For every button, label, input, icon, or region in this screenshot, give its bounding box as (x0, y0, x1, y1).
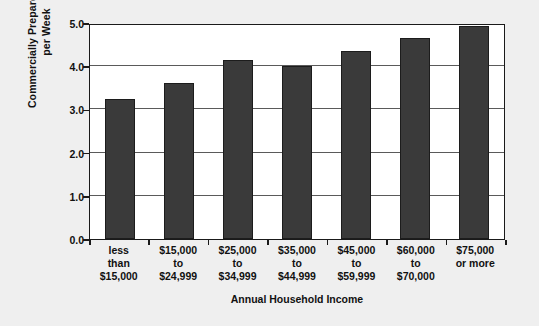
x-tick-label-line: $15,000 (89, 270, 148, 283)
x-tick-label: $25,000to$34,999 (208, 244, 267, 283)
bar-series (90, 25, 504, 239)
x-tick-label-line: $34,999 (208, 270, 267, 283)
x-tick-label-line: $44,999 (267, 270, 326, 283)
x-tick-mark (505, 240, 507, 245)
x-tick-label-line: $24,999 (148, 270, 207, 283)
x-tick-label-line: to (327, 257, 386, 270)
x-tick-label-line: less (89, 244, 148, 257)
plot-area (89, 24, 505, 240)
y-tick-label: 1.0 (50, 192, 84, 202)
x-tick-label-line: $60,000 (386, 244, 445, 257)
bar-chart-figure: Commercially Prepared Meals per Week 0.0… (0, 0, 539, 326)
bar-slot (267, 25, 326, 239)
x-tick-label-line: to (267, 257, 326, 270)
x-tick-label-line: to (386, 257, 445, 270)
y-tick-label: 4.0 (50, 62, 84, 72)
y-tick-label: 2.0 (50, 149, 84, 159)
x-tick-label-line: $75,000 (446, 244, 505, 257)
y-axis-title-line-2: per Week (40, 8, 52, 55)
x-tick-label-line: to (148, 257, 207, 270)
y-tick-label: 3.0 (50, 105, 84, 115)
x-tick-label: $75,000or more (446, 244, 505, 283)
bar (400, 38, 430, 239)
x-tick-label-line: $25,000 (208, 244, 267, 257)
x-tick-label-line: $59,999 (327, 270, 386, 283)
bar-slot (386, 25, 445, 239)
bar (341, 51, 371, 239)
x-tick-label-line: $70,000 (386, 270, 445, 283)
x-tick-label-line: $45,000 (327, 244, 386, 257)
x-tick-label-line: than (89, 257, 148, 270)
bar (282, 66, 312, 239)
x-axis-labels: lessthan$15,000$15,000to$24,999$25,000to… (89, 244, 505, 283)
x-tick-label-line: to (208, 257, 267, 270)
x-tick-label: lessthan$15,000 (89, 244, 148, 283)
bar-slot (327, 25, 386, 239)
bar (105, 99, 135, 239)
bar-slot (445, 25, 504, 239)
x-axis-title: Annual Household Income (89, 293, 505, 305)
x-tick-label: $15,000to$24,999 (148, 244, 207, 283)
x-tick-label-line: or more (446, 257, 505, 270)
bar-slot (149, 25, 208, 239)
x-tick-label-line: $35,000 (267, 244, 326, 257)
bar-slot (90, 25, 149, 239)
x-tick-label: $60,000to$70,000 (386, 244, 445, 283)
bar (459, 26, 489, 239)
y-axis-title-line-1: Commercially Prepared Meals (26, 0, 38, 108)
y-tick-label: 0.0 (50, 235, 84, 245)
x-tick-label: $35,000to$44,999 (267, 244, 326, 283)
x-tick-label: $45,000to$59,999 (327, 244, 386, 283)
x-tick-label-line: $15,000 (148, 244, 207, 257)
y-tick-label: 5.0 (50, 19, 84, 29)
bar (223, 60, 253, 239)
bar (164, 83, 194, 239)
bar-slot (208, 25, 267, 239)
